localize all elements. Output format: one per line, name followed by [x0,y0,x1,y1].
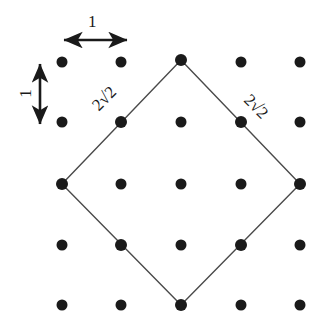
lattice-dot [116,179,127,190]
lattice-figure: 1 1 2√2 2√2 [0,0,324,333]
lattice-diagram-svg [0,0,324,333]
lattice-dot [116,300,127,311]
lattice-dot [295,300,306,311]
lattice-dot [57,117,68,128]
lattice-dot [176,179,187,190]
lattice-dot [295,117,306,128]
lattice-dot [294,178,306,190]
lattice-dot [175,299,187,311]
lattice-dot [295,240,306,251]
lattice-dot [235,239,247,251]
lattice-dot [236,300,247,311]
lattice-dot [236,179,247,190]
lattice-dot [57,240,68,251]
lattice-dot [57,57,68,68]
lattice-dot [236,57,247,68]
lattice-dot [176,240,187,251]
lattice-dot [176,117,187,128]
lattice-dot [57,300,68,311]
lattice-dot [116,57,127,68]
lattice-dot [295,57,306,68]
lattice-dot [56,178,68,190]
lattice-dot [115,239,127,251]
lattice-dot [115,116,127,128]
vertical-unit-label: 1 [17,89,34,98]
lattice-dots [56,54,306,311]
lattice-dot [235,116,247,128]
lattice-dot [175,54,187,66]
horizontal-unit-label: 1 [88,13,97,30]
